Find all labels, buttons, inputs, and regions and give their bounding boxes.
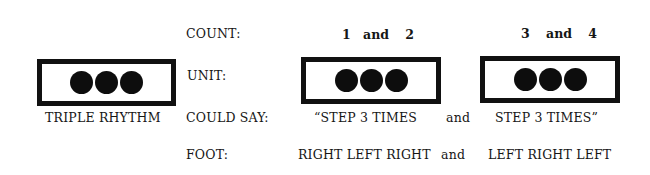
foot-group-2: LEFT RIGHT LEFT bbox=[488, 147, 611, 162]
say-group-2: STEP 3 TIMES” bbox=[495, 110, 598, 125]
could-say-label: COULD SAY: bbox=[186, 110, 269, 125]
unit-box-2 bbox=[480, 56, 620, 103]
count-group-2: 3 and 4 bbox=[521, 26, 597, 41]
count-beat: 4 bbox=[588, 26, 597, 41]
triple-rhythm-caption: TRIPLE RHYTHM bbox=[45, 110, 161, 125]
count-label: COUNT: bbox=[186, 26, 241, 41]
count-beat: 2 bbox=[405, 27, 414, 42]
beat-dot bbox=[385, 69, 408, 92]
triple-rhythm-box bbox=[37, 59, 176, 106]
beat-dot bbox=[360, 69, 383, 92]
count-and: and bbox=[546, 26, 572, 41]
beat-dot bbox=[514, 68, 537, 91]
unit-box-1 bbox=[301, 57, 441, 104]
say-and: and bbox=[446, 110, 470, 125]
count-beat: 1 bbox=[342, 27, 351, 42]
beat-dot bbox=[564, 68, 587, 91]
count-and: and bbox=[363, 27, 389, 42]
count-group-1: 1 and 2 bbox=[342, 27, 414, 42]
unit-label: UNIT: bbox=[187, 68, 227, 83]
count-beat: 3 bbox=[521, 26, 530, 41]
say-group-1: “STEP 3 TIMES bbox=[314, 110, 417, 125]
foot-and: and bbox=[441, 147, 465, 162]
beat-dot bbox=[335, 69, 358, 92]
foot-group-1: RIGHT LEFT RIGHT bbox=[298, 147, 431, 162]
beat-dot bbox=[539, 68, 562, 91]
beat-dot bbox=[95, 71, 118, 94]
beat-dot bbox=[120, 71, 143, 94]
foot-label: FOOT: bbox=[186, 147, 228, 162]
beat-dot bbox=[70, 71, 93, 94]
